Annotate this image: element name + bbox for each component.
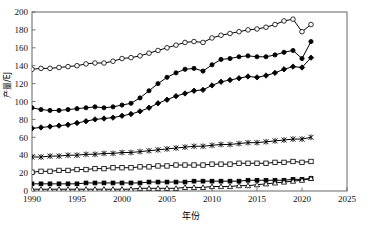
y-axis-label: 产量/EJ bbox=[1, 55, 15, 115]
y-tick-label: 140 bbox=[15, 61, 29, 71]
y-tick-label: 100 bbox=[15, 97, 29, 107]
series-cross bbox=[30, 134, 314, 159]
y-tick-label: 180 bbox=[15, 25, 29, 35]
y-tick-label: 120 bbox=[15, 79, 29, 89]
series-open-square bbox=[30, 159, 313, 174]
x-tick-label: 2010 bbox=[203, 194, 222, 204]
x-tick-label: 2005 bbox=[158, 194, 177, 204]
x-tick-label: 1995 bbox=[68, 194, 87, 204]
x-tick-label: 2015 bbox=[248, 194, 267, 204]
y-tick-label: 160 bbox=[15, 43, 29, 53]
y-tick-label: 40 bbox=[19, 150, 29, 160]
y-tick-label: 20 bbox=[19, 168, 29, 178]
series-filled-circle bbox=[30, 39, 313, 112]
x-tick-label: 2025 bbox=[338, 194, 357, 204]
x-tick-label: 2020 bbox=[293, 194, 312, 204]
y-tick-label: 80 bbox=[19, 115, 29, 125]
x-tick-label: 1990 bbox=[23, 194, 42, 204]
x-tick-label: 2000 bbox=[113, 194, 132, 204]
series-open-circle bbox=[30, 17, 314, 72]
chart-canvas: 0204060801001201401601802001990199520002… bbox=[0, 0, 382, 229]
y-tick-label: 60 bbox=[19, 133, 29, 143]
y-tick-label: 200 bbox=[15, 7, 29, 17]
line-chart: 0204060801001201401601802001990199520002… bbox=[0, 0, 382, 229]
x-axis-label: 年份 bbox=[0, 211, 382, 221]
series-filled-square bbox=[30, 177, 313, 186]
